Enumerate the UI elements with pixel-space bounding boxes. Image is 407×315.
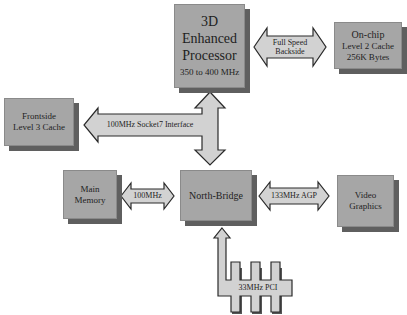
video-graphics-line1: Video — [355, 190, 376, 201]
main-memory-box: Main Memory — [63, 170, 117, 219]
main-memory-line1: Main — [81, 184, 100, 195]
l3-cache-box: Frontside Level 3 Cache — [4, 98, 74, 146]
l3-cache-line1: Frontside — [22, 111, 56, 122]
backside-label: Full Speed Backside — [267, 38, 313, 56]
l2-cache-line2: Level 2 Cache — [342, 41, 394, 52]
l2-cache-line3: 256K Bytes — [347, 52, 390, 63]
l3-cache-line2: Level 3 Cache — [13, 122, 65, 133]
backside-label-line2: Backside — [267, 47, 313, 56]
socket7-label: 100MHz Socket7 Interface — [98, 120, 202, 129]
processor-label-line3: Processor — [182, 48, 236, 65]
processor-speed: 350 to 400 MHz — [180, 67, 239, 78]
video-graphics-box: Video Graphics — [337, 175, 394, 227]
video-graphics-line2: Graphics — [349, 201, 382, 212]
processor-label-line1: 3D — [201, 14, 218, 31]
agp-label: 133MHz AGP — [270, 191, 318, 200]
processor-box: 3D Enhanced Processor 350 to 400 MHz — [174, 4, 245, 88]
north-bridge-box: North-Bridge — [180, 170, 252, 221]
pci-bus-arrow — [214, 228, 292, 312]
l2-cache-line1: On-chip — [352, 29, 385, 41]
memory-bus-label: 100MHz — [131, 191, 164, 200]
main-memory-line2: Memory — [75, 195, 106, 206]
north-bridge-label: North-Bridge — [189, 190, 243, 202]
l2-cache-box: On-chip Level 2 Cache 256K Bytes — [334, 22, 402, 69]
backside-label-line1: Full Speed — [267, 38, 313, 47]
processor-label-line2: Enhanced — [182, 31, 237, 48]
pci-label: 33MHz PCI — [226, 283, 290, 292]
